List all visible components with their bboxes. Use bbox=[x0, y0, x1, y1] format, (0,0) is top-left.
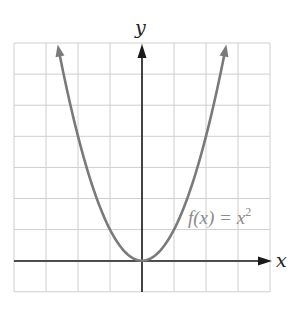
x-axis-label: x bbox=[276, 249, 287, 271]
function-label: f(x) = x2 bbox=[188, 205, 251, 229]
curve-arrow-right-icon bbox=[220, 45, 229, 58]
function-label-exponent: 2 bbox=[245, 205, 251, 219]
curve-arrow-left-icon bbox=[56, 45, 65, 58]
parabola-graph: x y f(x) = x2 bbox=[0, 0, 296, 311]
function-label-main: f(x) = x bbox=[188, 207, 246, 229]
axes bbox=[14, 44, 272, 292]
y-axis-label: y bbox=[134, 16, 146, 38]
y-axis-arrow-icon bbox=[138, 44, 147, 58]
